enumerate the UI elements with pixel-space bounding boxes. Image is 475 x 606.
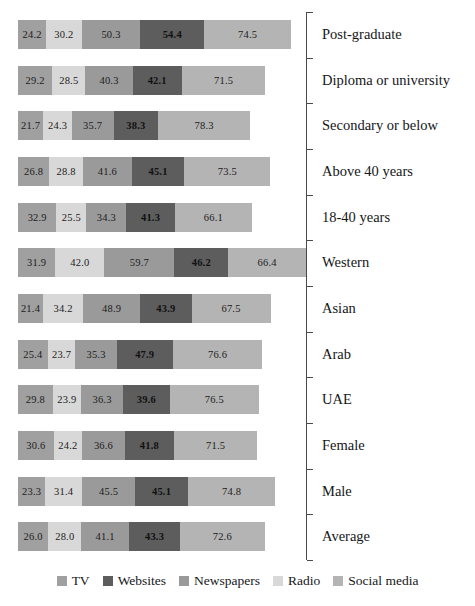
bar-segment-websites: 24.3 xyxy=(43,111,71,140)
bar-segment-social-media: 76.6 xyxy=(173,340,263,369)
chart-legend: TVWebsitesNewspapersRadioSocial media xyxy=(0,566,475,596)
legend-item: Websites xyxy=(103,573,166,589)
bar-segment-newspapers: 36.6 xyxy=(82,431,125,460)
bar-segment-websites: 31.4 xyxy=(45,477,82,506)
bar-segment-social-media: 74.8 xyxy=(188,477,275,506)
bar-row: 21.434.248.943.967.5Asian xyxy=(0,286,475,332)
legend-label: Websites xyxy=(118,573,166,589)
legend-swatch-icon xyxy=(103,576,113,586)
legend-item: TV xyxy=(57,573,90,589)
bar-segment-social-media: 76.5 xyxy=(170,385,259,414)
category-label: Post-graduate xyxy=(322,12,402,58)
bar-segment-social-media: 66.4 xyxy=(228,248,306,277)
bar-segment-newspapers: 34.3 xyxy=(86,203,126,232)
bar-segment-radio: 47.9 xyxy=(117,340,173,369)
stacked-bar: 32.925.534.341.366.1 xyxy=(18,203,252,232)
bar-segment-newspapers: 41.1 xyxy=(81,522,129,551)
bar-segment-newspapers: 35.3 xyxy=(75,340,116,369)
bar-segment-social-media: 71.5 xyxy=(182,66,266,95)
stacked-bar: 21.434.248.943.967.5 xyxy=(18,294,271,323)
plot-area: 24.230.250.354.474.5Post-graduate29.228.… xyxy=(0,0,475,560)
bar-segment-websites: 23.9 xyxy=(53,385,81,414)
bar-segment-radio: 46.2 xyxy=(174,248,228,277)
legend-label: Newspapers xyxy=(194,573,260,589)
bar-segment-websites: 28.8 xyxy=(49,157,83,186)
stacked-bar: 31.942.059.746.266.4 xyxy=(18,248,306,277)
bar-row: 29.823.936.339.676.5UAE xyxy=(0,377,475,423)
bar-segment-newspapers: 41.6 xyxy=(83,157,132,186)
bar-segment-websites: 28.0 xyxy=(48,522,81,551)
category-label: Female xyxy=(322,423,365,469)
bar-segment-radio: 45.1 xyxy=(135,477,188,506)
bar-segment-tv: 21.4 xyxy=(18,294,43,323)
legend-item: Newspapers xyxy=(179,573,260,589)
category-label: 18-40 years xyxy=(322,195,390,241)
bar-row: 21.724.335.738.378.3Secondary or below xyxy=(0,103,475,149)
category-label: Diploma or university xyxy=(322,58,450,104)
bar-segment-radio: 54.4 xyxy=(140,20,204,49)
bar-segment-newspapers: 40.3 xyxy=(85,66,132,95)
bar-segment-social-media: 74.5 xyxy=(204,20,291,49)
category-label: Male xyxy=(322,469,352,515)
bar-segment-radio: 45.1 xyxy=(132,157,185,186)
stacked-bar: 24.230.250.354.474.5 xyxy=(18,20,291,49)
bar-segment-tv: 30.6 xyxy=(18,431,54,460)
legend-label: Social media xyxy=(348,573,418,589)
bar-segment-tv: 29.2 xyxy=(18,66,52,95)
category-label: Above 40 years xyxy=(322,149,413,195)
bar-segment-tv: 26.0 xyxy=(18,522,48,551)
bar-segment-radio: 43.3 xyxy=(129,522,180,551)
bar-row: 26.028.041.143.372.6Average xyxy=(0,514,475,560)
bar-segment-websites: 34.2 xyxy=(43,294,83,323)
bar-row: 31.942.059.746.266.4Western xyxy=(0,240,475,286)
bar-segment-radio: 41.3 xyxy=(126,203,174,232)
bar-segment-websites: 42.0 xyxy=(55,248,104,277)
category-label: Asian xyxy=(322,286,356,332)
bar-segment-radio: 41.8 xyxy=(125,431,174,460)
legend-item: Radio xyxy=(273,573,320,589)
stacked-bar: 25.423.735.347.976.6 xyxy=(18,340,262,369)
category-label: Average xyxy=(322,514,370,560)
bar-segment-websites: 25.5 xyxy=(56,203,86,232)
bar-segment-social-media: 72.6 xyxy=(180,522,265,551)
bar-segment-websites: 23.7 xyxy=(48,340,76,369)
bar-row: 29.228.540.342.171.5Diploma or universit… xyxy=(0,58,475,104)
bar-segment-newspapers: 36.3 xyxy=(81,385,123,414)
bar-rows: 24.230.250.354.474.5Post-graduate29.228.… xyxy=(0,12,475,560)
stacked-bar: 21.724.335.738.378.3 xyxy=(18,111,250,140)
bar-segment-newspapers: 48.9 xyxy=(83,294,140,323)
stacked-bar: 26.828.841.645.173.5 xyxy=(18,157,270,186)
bar-segment-websites: 30.2 xyxy=(46,20,81,49)
bar-segment-newspapers: 35.7 xyxy=(72,111,114,140)
category-label: Western xyxy=(322,240,369,286)
bar-segment-social-media: 71.5 xyxy=(174,431,258,460)
stacked-bar: 23.331.445.545.174.8 xyxy=(18,477,275,506)
legend-label: TV xyxy=(72,573,90,589)
stacked-bar: 30.624.236.641.871.5 xyxy=(18,431,257,460)
bar-segment-social-media: 78.3 xyxy=(158,111,250,140)
bar-segment-newspapers: 45.5 xyxy=(82,477,135,506)
bar-segment-websites: 28.5 xyxy=(52,66,85,95)
bar-row: 24.230.250.354.474.5Post-graduate xyxy=(0,12,475,58)
bar-segment-tv: 32.9 xyxy=(18,203,56,232)
bar-segment-social-media: 73.5 xyxy=(184,157,270,186)
bar-row: 23.331.445.545.174.8Male xyxy=(0,469,475,515)
bar-segment-radio: 42.1 xyxy=(133,66,182,95)
bar-row: 25.423.735.347.976.6Arab xyxy=(0,332,475,378)
category-label: Arab xyxy=(322,332,351,378)
bar-segment-newspapers: 59.7 xyxy=(104,248,174,277)
legend-swatch-icon xyxy=(57,576,67,586)
bar-segment-tv: 25.4 xyxy=(18,340,48,369)
bar-segment-radio: 38.3 xyxy=(114,111,159,140)
bar-segment-newspapers: 50.3 xyxy=(82,20,141,49)
bar-segment-websites: 24.2 xyxy=(54,431,82,460)
legend-swatch-icon xyxy=(273,576,283,586)
bar-segment-tv: 24.2 xyxy=(18,20,46,49)
legend-swatch-icon xyxy=(179,576,189,586)
stacked-bar: 26.028.041.143.372.6 xyxy=(18,522,265,551)
bar-segment-tv: 26.8 xyxy=(18,157,49,186)
bar-segment-tv: 29.8 xyxy=(18,385,53,414)
bar-segment-radio: 43.9 xyxy=(140,294,191,323)
bar-segment-radio: 39.6 xyxy=(123,385,169,414)
bar-segment-social-media: 66.1 xyxy=(175,203,252,232)
